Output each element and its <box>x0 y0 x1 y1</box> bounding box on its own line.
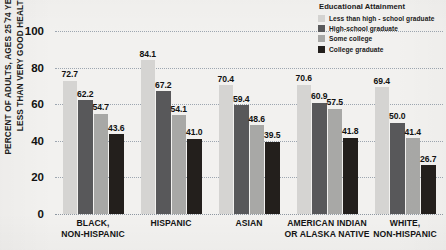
bar-value-label: 62.2 <box>77 89 93 99</box>
bar-group: 84.167.254.141.0 <box>141 31 202 214</box>
bar-value-label: 41.0 <box>186 127 202 137</box>
legend-label: Less than high - school graduate <box>329 15 434 22</box>
x-label-line: WHITE, <box>353 218 446 229</box>
bar-value-label: 43.6 <box>108 123 124 133</box>
bar[interactable]: 59.4 <box>234 105 249 214</box>
bar[interactable]: 72.7 <box>63 81 78 214</box>
bar-value-label: 48.6 <box>249 114 265 124</box>
legend-swatch-icon <box>318 25 325 32</box>
legend-swatch-icon <box>318 35 325 42</box>
legend-item[interactable]: High-school graduate <box>318 25 446 33</box>
bar-group: 70.459.448.639.5 <box>219 31 280 214</box>
bar-value-label: 60.9 <box>311 91 327 101</box>
bar[interactable]: 41.4 <box>406 138 421 214</box>
legend: Educational Attainment Less than high - … <box>318 2 446 55</box>
bar-group: 72.762.254.743.6 <box>63 31 124 214</box>
gridline-0 <box>55 214 443 215</box>
legend-label: College graduate <box>329 46 384 53</box>
bar[interactable]: 62.2 <box>78 100 93 214</box>
y-tick-20: 20 <box>0 171 44 183</box>
legend-item[interactable]: Less than high - school graduate <box>318 15 446 23</box>
bar-value-label: 50.0 <box>389 111 405 121</box>
bar[interactable]: 43.6 <box>109 134 124 214</box>
bar-value-label: 59.4 <box>233 94 249 104</box>
bar[interactable]: 57.5 <box>328 109 343 214</box>
y-tick-40: 40 <box>0 135 44 147</box>
bar-value-label: 70.4 <box>218 74 234 84</box>
legend-swatch-icon <box>318 15 325 22</box>
bar[interactable]: 39.5 <box>265 142 280 214</box>
bar-value-label: 69.4 <box>374 76 390 86</box>
bar-value-label: 41.8 <box>342 126 358 136</box>
bar-value-label: 72.7 <box>62 69 78 79</box>
y-tick-80: 80 <box>0 62 44 74</box>
bar-value-label: 70.6 <box>296 73 312 83</box>
bar[interactable]: 48.6 <box>250 125 265 214</box>
bar-value-label: 54.1 <box>171 104 187 114</box>
bar[interactable]: 70.6 <box>297 85 312 214</box>
y-tick-0: 0 <box>0 208 44 220</box>
bar[interactable]: 67.2 <box>156 91 171 214</box>
bar-value-label: 67.2 <box>155 80 171 90</box>
y-tick-60: 60 <box>0 98 44 110</box>
bar[interactable]: 50.0 <box>390 123 405 215</box>
legend-item[interactable]: Some college <box>318 35 446 43</box>
bar[interactable]: 69.4 <box>375 87 390 214</box>
bar[interactable]: 41.0 <box>187 139 202 214</box>
y-tick-100: 100 <box>0 25 44 37</box>
x-label-line: NON-HISPANIC <box>41 229 145 240</box>
legend-items: Less than high - school graduateHigh-sch… <box>318 15 446 54</box>
bar[interactable]: 41.8 <box>343 138 358 214</box>
legend-item[interactable]: College graduate <box>318 45 446 53</box>
bar-value-label: 41.4 <box>405 127 421 137</box>
bar-value-label: 84.1 <box>140 49 156 59</box>
legend-label: Some college <box>329 35 372 42</box>
bar-group: 69.450.041.426.7 <box>375 31 436 214</box>
bar[interactable]: 84.1 <box>141 60 156 214</box>
bar[interactable]: 54.1 <box>172 115 187 214</box>
bar[interactable]: 26.7 <box>421 165 436 214</box>
legend-title: Educational Attainment <box>319 2 446 11</box>
bar[interactable]: 70.4 <box>219 85 234 214</box>
x-label-line: NON-HISPANIC <box>353 229 446 240</box>
x-axis-category-labels: BLACK,NON-HISPANICHISPANICASIANAMERICAN … <box>55 218 443 248</box>
y-axis-tick-labels: 020406080100 <box>0 31 50 214</box>
legend-swatch-icon <box>318 46 325 53</box>
bar-chart: PERCENT OF ADULTS, AGES 25 ̄74 YEARS, IN… <box>0 0 446 250</box>
bar[interactable]: 54.7 <box>94 114 109 214</box>
bar-value-label: 54.7 <box>93 102 109 112</box>
bar-value-label: 57.5 <box>327 97 343 107</box>
bar-value-label: 39.5 <box>264 130 280 140</box>
bar-groups: 72.762.254.743.684.167.254.141.070.459.4… <box>55 31 443 214</box>
x-axis-label: WHITE,NON-HISPANIC <box>353 218 446 239</box>
bar[interactable]: 60.9 <box>312 103 327 214</box>
bar-group: 70.660.957.541.8 <box>297 31 358 214</box>
bar-value-label: 26.7 <box>420 154 436 164</box>
legend-label: High-school graduate <box>329 25 398 32</box>
